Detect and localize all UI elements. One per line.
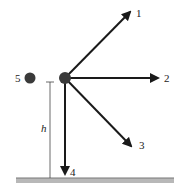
ball-5-label: 5 [15,72,21,84]
projectile-diagram: h 1 2 3 4 5 [0,0,174,187]
arrow-3-label: 3 [139,139,145,151]
ground [16,178,174,183]
arrow-4-label: 4 [70,166,76,178]
height-dimension [46,82,54,178]
ball-launch [59,72,71,84]
arrow-3 [65,78,131,146]
arrow-1 [65,12,130,78]
arrow-2-label: 2 [164,72,170,84]
height-label: h [41,122,47,134]
arrow-1-label: 1 [136,7,142,19]
ball-5 [25,73,36,84]
